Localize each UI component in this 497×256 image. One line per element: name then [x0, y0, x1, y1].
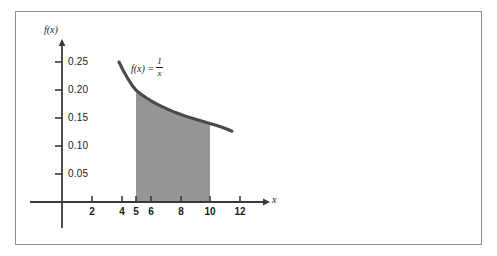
y-tick-label: 0.10 [68, 140, 88, 151]
fraction-denominator: x [156, 68, 162, 78]
x-tick-label: 6 [141, 206, 161, 217]
y-tick-label: 0.15 [68, 112, 88, 123]
y-axis-label: f(x) [44, 24, 58, 35]
y-axis-ticks [55, 62, 62, 174]
y-tick-label: 0.05 [68, 168, 88, 179]
plot-area [0, 0, 497, 256]
y-tick-label: 0.25 [68, 56, 88, 67]
x-tick-label: 2 [82, 206, 102, 217]
x-tick-label: 10 [200, 206, 220, 217]
x-axis-label: x [272, 194, 276, 205]
equation-lhs: f(x) = [131, 63, 154, 74]
x-tick-label: 8 [171, 206, 191, 217]
x-tick-label: 12 [230, 206, 250, 217]
curve-equation-annotation: f(x) = 1 x [131, 58, 163, 79]
figure-page: f(x) x 0.25 0.20 0.15 0.10 0.05 2 4 5 6 … [0, 0, 497, 256]
fraction-numerator: 1 [156, 57, 163, 67]
y-tick-label: 0.20 [68, 84, 88, 95]
x-axis-arrowhead [263, 199, 270, 206]
shaded-area-under-curve [136, 90, 210, 202]
equation-fraction: 1 x [156, 57, 163, 78]
y-axis-arrowhead [59, 39, 66, 46]
